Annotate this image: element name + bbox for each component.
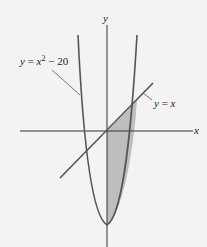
diagram: y x y = x2 − 20 y = x (0, 0, 207, 247)
shaded-region (107, 100, 137, 225)
parabola-label: y = x2 − 20 (19, 54, 69, 67)
diagram-canvas: y x y = x2 − 20 y = x (0, 0, 207, 247)
parabola-label-leader (52, 70, 80, 95)
y-axis-label: y (102, 12, 108, 24)
line-label: y = x (153, 97, 176, 109)
line-label-leader (143, 93, 152, 100)
x-axis-label: x (193, 124, 199, 136)
